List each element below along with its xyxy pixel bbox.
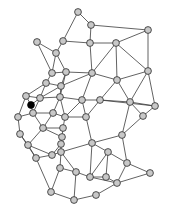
graph-node[interactable] [15, 114, 22, 121]
graph-node[interactable] [37, 95, 44, 102]
graph-node[interactable] [49, 70, 56, 77]
graph-edge [86, 117, 92, 143]
graph-node[interactable] [62, 114, 69, 121]
graph-node[interactable] [43, 80, 50, 87]
graph-edge [116, 43, 117, 80]
graph-node[interactable] [48, 189, 55, 196]
graph-edge [117, 173, 150, 183]
graph-node[interactable] [114, 180, 121, 187]
graph-node[interactable] [145, 68, 152, 75]
graph-node[interactable] [93, 192, 100, 199]
graph-edge [117, 80, 130, 102]
graph-edge [122, 102, 130, 135]
graph-node-highlighted[interactable] [28, 102, 35, 109]
graph-node[interactable] [79, 97, 86, 104]
graph-node[interactable] [60, 125, 67, 132]
graph-edge [122, 135, 127, 163]
graph-node[interactable] [25, 142, 32, 149]
graph-node[interactable] [127, 99, 134, 106]
graph-node[interactable] [83, 114, 90, 121]
graph-node[interactable] [34, 39, 41, 46]
graph-node[interactable] [97, 97, 104, 104]
graph-node[interactable] [140, 113, 147, 120]
graph-node[interactable] [114, 77, 121, 84]
graph-edge [61, 143, 92, 152]
graph-node[interactable] [57, 165, 64, 172]
graph-edge [51, 168, 60, 192]
graph-node[interactable] [40, 125, 47, 132]
graph-edge [92, 73, 117, 80]
graph-edge [92, 43, 116, 73]
graph-node[interactable] [53, 50, 60, 57]
graph-node[interactable] [63, 69, 70, 76]
graph-node[interactable] [105, 149, 112, 156]
graph-edge [63, 12, 78, 41]
graph-edge [66, 72, 92, 73]
graph-node[interactable] [57, 94, 64, 101]
graph-node[interactable] [152, 103, 159, 110]
graph-node[interactable] [58, 149, 65, 156]
graph-node[interactable] [88, 22, 95, 29]
graph-node[interactable] [124, 160, 131, 167]
graph-edge [100, 80, 117, 100]
graph-edge [90, 143, 92, 177]
graph-node[interactable] [50, 110, 57, 117]
graph-node[interactable] [147, 170, 154, 177]
graph-node[interactable] [58, 141, 65, 148]
graph-node[interactable] [89, 70, 96, 77]
graph-edge [82, 73, 92, 100]
graph-node[interactable] [58, 83, 65, 90]
graph-edge [90, 43, 92, 73]
graph-diagram-canvas [0, 0, 170, 212]
graph-edge [91, 25, 148, 30]
graph-node[interactable] [17, 131, 24, 138]
graph-node[interactable] [30, 110, 37, 117]
graph-node[interactable] [33, 155, 40, 162]
graph-node[interactable] [49, 152, 56, 159]
graph-edge [74, 172, 76, 200]
graph-edge [116, 43, 148, 71]
graph-node[interactable] [59, 134, 66, 141]
graph-node[interactable] [145, 27, 152, 34]
graph-node[interactable] [60, 38, 67, 45]
graph-node[interactable] [103, 174, 110, 181]
graph-edge [92, 135, 122, 143]
graph-node[interactable] [119, 132, 126, 139]
graph-edge [63, 41, 90, 43]
graph-edge [148, 71, 155, 106]
graph-node[interactable] [87, 174, 94, 181]
graph-node[interactable] [113, 40, 120, 47]
graph-node[interactable] [87, 40, 94, 47]
graph-node[interactable] [73, 169, 80, 176]
graph-edge [28, 145, 52, 155]
graph-node[interactable] [23, 93, 30, 100]
graph-edge [116, 30, 148, 43]
graph-node[interactable] [71, 197, 78, 204]
graph-edge [90, 152, 108, 177]
graph-node[interactable] [75, 9, 82, 16]
graph-diagram [0, 0, 170, 212]
graph-node[interactable] [89, 140, 96, 147]
graph-edge [36, 158, 51, 192]
graph-edge [122, 116, 143, 135]
